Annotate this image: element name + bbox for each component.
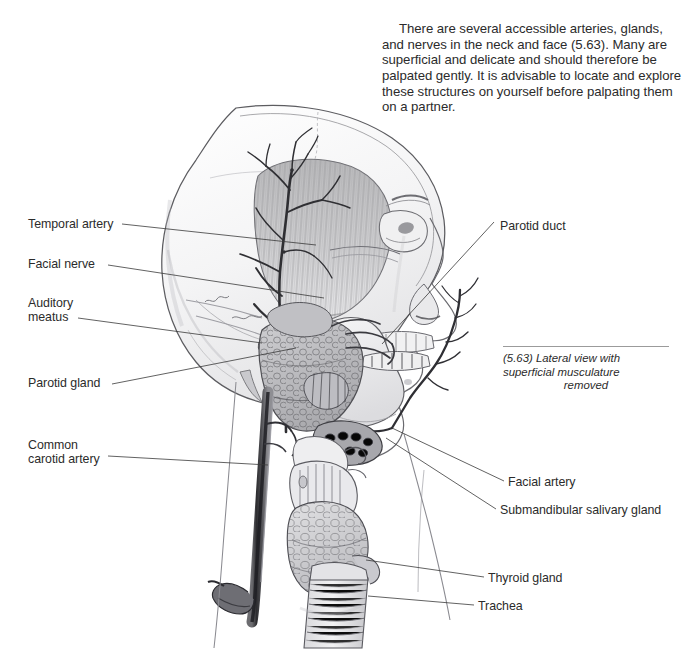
label-parotid-duct: Parotid duct <box>500 219 566 233</box>
label-parotid-gland: Parotid gland <box>28 376 100 390</box>
leader-common-carotid <box>108 456 268 465</box>
leader-facial-artery <box>392 428 504 481</box>
figure-page: There are several accessible arteries, g… <box>0 0 692 670</box>
caption-line-2: superficial musculature <box>503 366 669 380</box>
caption-line-3: removed <box>503 379 669 393</box>
leader-facial-nerve <box>108 265 324 298</box>
leader-parotid-duct <box>382 222 494 344</box>
label-facial-artery: Facial artery <box>508 475 576 489</box>
leader-trachea <box>368 596 474 605</box>
label-trachea: Trachea <box>478 599 523 613</box>
caption-line-1: (5.63) Lateral view with <box>503 352 669 366</box>
label-temporal-artery: Temporal artery <box>28 217 113 231</box>
label-thyroid-gland: Thyroid gland <box>488 571 562 585</box>
label-facial-nerve: Facial nerve <box>28 257 95 271</box>
label-submandibular-salivary-gland: Submandibular salivary gland <box>500 503 661 517</box>
label-auditory-meatus: Auditory meatus <box>28 296 73 325</box>
caption-rule <box>503 346 669 347</box>
leader-temporal-artery <box>122 224 316 245</box>
leader-auditory-meatus <box>78 318 262 343</box>
intro-paragraph: There are several accessible arteries, g… <box>382 21 688 115</box>
leader-submandibular <box>386 438 496 509</box>
caption-text: (5.63) Lateral view with superficial mus… <box>503 352 669 393</box>
label-common-carotid-artery: Common carotid artery <box>28 438 100 467</box>
leader-thyroid-gland <box>366 560 484 577</box>
figure-caption: (5.63) Lateral view with superficial mus… <box>503 346 669 393</box>
leader-parotid-gland <box>112 348 296 384</box>
